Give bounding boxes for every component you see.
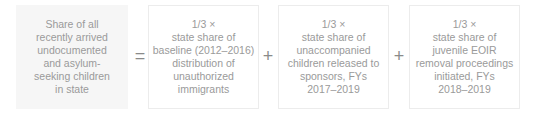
term-line: juvenile EOIR [432,44,496,57]
lhs-box-share-of-children: Share of all recently arrived undocument… [16,5,128,109]
plus-sign: + [389,46,409,66]
term-line: removal proceedings [416,57,513,70]
term-line: 2018–2019 [438,83,491,96]
term-box-unauthorized-immigrants: 1/3 × state share of baseline (2012–2016… [148,5,259,109]
term-box-juvenile-eoir-proceedings: 1/3 × state share of juvenile EOIR remov… [409,5,520,109]
term-line: unauthorized [173,70,234,83]
term-line: 2017–2019 [307,83,360,96]
term-line: state share of [433,31,497,44]
term-line: 1/3 × [453,18,477,31]
term-line: sponsors, FYs [300,70,367,83]
term-line: initiated, FYs [434,70,495,83]
lhs-line: recently arrived [36,31,108,44]
equals-sign: = [130,46,150,66]
term-line: distribution of [172,57,234,70]
term-line: unaccompanied [296,44,370,57]
term-line: state share of [302,31,366,44]
lhs-line: in state [55,83,89,96]
plus-sign: + [258,46,278,66]
term-line: immigrants [178,83,229,96]
term-line: 1/3 × [322,18,346,31]
lhs-line: and asylum- [43,57,100,70]
term-line: 1/3 × [192,18,216,31]
lhs-line: seeking children [34,70,110,83]
lhs-line: undocumented [37,44,106,57]
term-box-unaccompanied-children: 1/3 × state share of unaccompanied child… [278,5,389,109]
lhs-line: Share of all [45,18,98,31]
term-line: state share of [172,31,236,44]
term-line: baseline (2012–2016) [153,44,255,57]
term-line: children released to [288,57,380,70]
